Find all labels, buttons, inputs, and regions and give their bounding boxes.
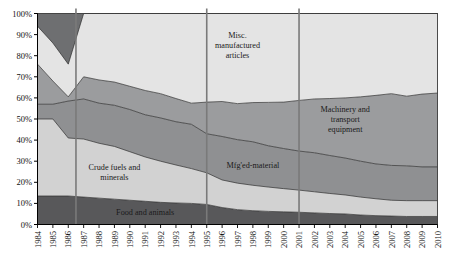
x-axis-tick-label: 2001 (294, 231, 304, 248)
x-axis-tick-label: 1987 (79, 231, 89, 248)
x-axis-tick-label: 1988 (94, 231, 104, 248)
svg-text:Mfg'ed-material: Mfg'ed-material (226, 161, 280, 170)
x-axis-tick-label: 1999 (263, 231, 273, 248)
x-axis-tick-label: 1995 (202, 231, 212, 248)
svg-text:articles: articles (226, 51, 250, 60)
stacked-area-chart: 0%10%20%30%40%50%60%70%80%90%100%1984198… (0, 0, 453, 278)
x-axis-tick-label: 1984 (33, 230, 43, 248)
x-axis-tick-label: 2003 (325, 231, 335, 248)
y-axis-tick-label: 60% (16, 93, 32, 103)
svg-text:transport: transport (331, 115, 361, 124)
x-axis-tick-label: 1997 (233, 231, 243, 248)
y-axis-tick-label: 40% (16, 135, 32, 145)
x-axis-tick-label: 1996 (217, 231, 227, 248)
x-axis-tick-label: 1989 (110, 231, 120, 248)
y-axis-tick-label: 50% (16, 114, 32, 124)
x-axis-tick-label: 2010 (433, 231, 443, 248)
x-axis-tick-label: 2004 (340, 230, 350, 248)
x-axis-tick-label: 1990 (125, 231, 135, 248)
svg-text:manufactured: manufactured (215, 41, 260, 50)
svg-text:equipment: equipment (328, 125, 363, 134)
x-axis-tick-label: 2002 (310, 231, 320, 248)
chart-figure: 0%10%20%30%40%50%60%70%80%90%100%1984198… (0, 0, 453, 278)
x-axis-tick-label: 2005 (356, 231, 366, 248)
x-axis-tick-label: 1991 (140, 231, 150, 248)
x-axis-tick-label: 2008 (402, 231, 412, 248)
x-axis-tick-label: 2000 (279, 231, 289, 248)
y-axis-tick-label: 70% (16, 72, 32, 82)
x-axis-tick-label: 1992 (156, 231, 166, 248)
food-and-animals-label: Food and animals (116, 208, 174, 217)
svg-text:Food and animals: Food and animals (116, 208, 174, 217)
y-axis-tick-label: 30% (16, 156, 32, 166)
svg-text:Crude fuels and: Crude fuels and (89, 163, 141, 172)
x-axis-tick-label: 1986 (63, 231, 73, 248)
x-axis-tick-label: 1993 (171, 231, 181, 248)
x-axis-tick-label: 2006 (371, 231, 381, 248)
svg-text:Machinery and: Machinery and (321, 105, 370, 114)
x-axis-tick-label: 1998 (248, 231, 258, 248)
y-axis-tick-label: 10% (16, 198, 32, 208)
y-axis-tick-label: 80% (16, 51, 32, 61)
mfged-material-label: Mfg'ed-material (226, 161, 280, 170)
x-axis-tick-label: 1994 (187, 230, 197, 248)
x-axis-tick-label: 1985 (48, 231, 58, 248)
svg-text:Misc.: Misc. (228, 31, 246, 40)
y-axis-tick-label: 20% (16, 177, 32, 187)
y-axis-tick-label: 0% (21, 220, 32, 230)
y-axis-tick-label: 100% (12, 9, 32, 19)
y-axis-tick-label: 90% (16, 30, 32, 40)
x-axis-tick-label: 2007 (387, 231, 397, 248)
x-axis-tick-label: 2009 (417, 231, 427, 248)
svg-text:minerals: minerals (100, 173, 128, 182)
